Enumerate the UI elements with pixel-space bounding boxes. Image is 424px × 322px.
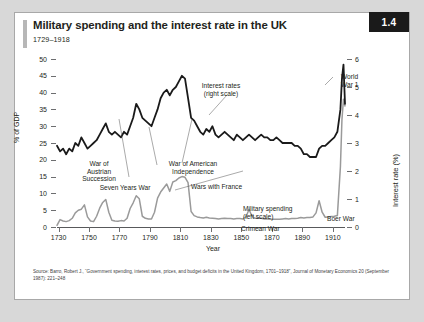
source-line-1: Source: Barro, Robert J., “Government sp…: [33, 269, 357, 274]
x-tick-label: 1790: [133, 234, 167, 241]
y-tick-label-left: 20: [27, 156, 47, 163]
y-tick-left: [51, 59, 56, 60]
y-tick-right: [347, 171, 352, 172]
figure-title: Military spending and the interest rate …: [33, 19, 287, 31]
figure-header: Military spending and the interest rate …: [15, 13, 409, 57]
y-tick-label-right: 2: [355, 168, 371, 175]
y-tick-right: [347, 59, 352, 60]
y-axis-right-label: Interest rate (%): [391, 154, 400, 207]
figure-subtitle: 1729–1918: [33, 35, 70, 44]
x-tick: [89, 227, 90, 232]
x-tick-label: 1870: [255, 234, 289, 241]
y-tick-label-right: 4: [355, 112, 371, 119]
x-tick-label: 1850: [224, 234, 258, 241]
plot-container: % of GDP Interest rate (%) Year 05101520…: [15, 57, 411, 257]
x-tick-label: 1730: [42, 234, 76, 241]
y-tick-left: [51, 193, 56, 194]
x-tick-label: 1750: [72, 234, 106, 241]
y-tick-label-left: 25: [27, 140, 47, 147]
y-tick-left: [51, 76, 56, 77]
annotation-interest-rates: Interest rates (right scale): [183, 82, 259, 97]
x-tick-label: 1890: [285, 234, 319, 241]
leader-world-war-1: [325, 77, 333, 85]
y-tick-label-left: 0: [27, 224, 47, 231]
leader-interest-rates: [209, 95, 227, 115]
y-tick-left: [51, 210, 56, 211]
y-tick-left: [51, 227, 56, 228]
y-tick-left: [51, 126, 56, 127]
figure-source: Source: Barro, Robert J., “Government sp…: [33, 269, 399, 282]
y-tick-left: [51, 93, 56, 94]
y-tick-right: [347, 143, 352, 144]
annotation-war-american-independence: War of American Independence: [153, 160, 233, 175]
x-tick: [59, 227, 60, 232]
annotation-crimean-war: Crimean War: [241, 225, 307, 233]
y-tick-label-left: 50: [27, 56, 47, 63]
x-tick-label: 1910: [316, 234, 350, 241]
y-tick-label-right: 6: [355, 56, 371, 63]
y-tick-label-left: 40: [27, 89, 47, 96]
y-tick-label-left: 35: [27, 106, 47, 113]
y-tick-label-left: 45: [27, 72, 47, 79]
annotation-boer-war: Boer War: [327, 215, 375, 223]
x-tick-label: 1830: [194, 234, 228, 241]
x-tick-label: 1810: [163, 234, 197, 241]
y-tick-right: [347, 115, 352, 116]
y-tick-right: [347, 227, 352, 228]
x-tick: [333, 227, 334, 232]
y-tick-label-right: 1: [355, 196, 371, 203]
x-axis-label: Year: [15, 245, 411, 252]
y-tick-left: [51, 177, 56, 178]
x-tick: [119, 227, 120, 232]
y-tick-left: [51, 143, 56, 144]
x-tick: [211, 227, 212, 232]
y-axis-left-label: % of GDP: [13, 112, 20, 143]
x-tick: [180, 227, 181, 232]
annotation-wars-with-france: Wars with France: [191, 183, 265, 191]
y-tick-label-right: 0: [355, 224, 371, 231]
y-tick-label-left: 30: [27, 123, 47, 130]
y-tick-left: [51, 160, 56, 161]
y-tick-right: [347, 199, 352, 200]
x-tick-label: 1770: [102, 234, 136, 241]
leader-american-independence: [182, 119, 192, 163]
figure-panel: Military spending and the interest rate …: [14, 12, 410, 300]
y-tick-label-left: 10: [27, 190, 47, 197]
title-accent-bar: [23, 20, 27, 48]
annotation-seven-years-war: Seven Years War: [89, 184, 161, 192]
figure-number-badge: 1.4: [369, 12, 409, 32]
annotation-military-spending: Military spending (left scale): [243, 205, 323, 220]
y-tick-label-left: 5: [27, 207, 47, 214]
y-tick-left: [51, 109, 56, 110]
x-tick: [150, 227, 151, 232]
y-tick-label-left: 15: [27, 173, 47, 180]
annotation-war-austrian-succession: War of Austrian Succession: [73, 160, 125, 183]
annotation-world-war-1: World War 1: [341, 73, 375, 88]
y-tick-label-right: 3: [355, 140, 371, 147]
